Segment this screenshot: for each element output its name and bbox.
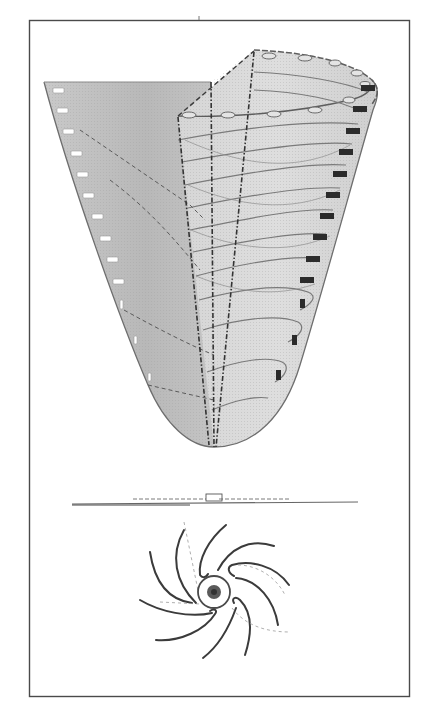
- surface-line: [72, 494, 358, 505]
- surface-depression-box: [206, 494, 222, 501]
- vortex-core-center: [211, 589, 217, 595]
- vortex-diagram-plate: [0, 0, 429, 705]
- vortex-funnel: [44, 50, 377, 447]
- spiral-plan-view: [140, 522, 290, 658]
